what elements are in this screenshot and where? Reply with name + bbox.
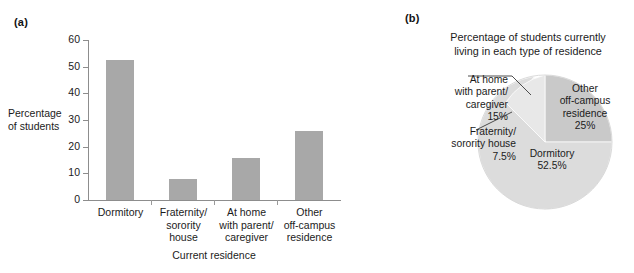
bar-fraternity-sorority-house: [169, 179, 197, 200]
y-tick-label-20: 20: [68, 140, 80, 153]
y-tick-label-0: 0: [74, 193, 80, 206]
pie-label-fraternity-sorority-house: Fraternity/ sorority house 7.5%: [400, 126, 516, 163]
x-tick-2: [214, 200, 215, 205]
pie-label-dormitory: Dormitory 52.5%: [510, 148, 594, 173]
y-tick-label-60: 60: [68, 33, 80, 46]
pie-label-at-home-with-parent-caregiver: At home with parent/ caregiver 15%: [400, 74, 508, 124]
x-tick-1: [151, 200, 152, 205]
y-tick-label-30: 30: [68, 113, 80, 126]
bar-other-off-campus-residence: [295, 131, 323, 200]
bar-at-home-with-parent-caregiver: [232, 158, 260, 200]
bar-chart-panel: (a) Percentage of students 60 50 40 30 2…: [0, 0, 400, 273]
y-tick-label-50: 50: [68, 60, 80, 73]
panel-a-label: (a): [14, 16, 28, 28]
y-tick-label-10: 10: [68, 166, 80, 179]
y-tick-label-40: 40: [68, 86, 80, 99]
bar-chart-plot-area: 60 50 40 30 20 10 0: [88, 40, 340, 200]
pie-chart-panel: (b) Percentage of students currently liv…: [400, 0, 634, 273]
bar-dormitory: [106, 60, 134, 200]
x-tick-3: [277, 200, 278, 205]
x-category-label-other-off-campus: Other off-campus residence: [272, 206, 347, 244]
bar-chart-x-axis-title: Current residence: [88, 249, 340, 261]
pie-label-other-off-campus-residence: Other off-campus residence 25%: [548, 83, 622, 133]
